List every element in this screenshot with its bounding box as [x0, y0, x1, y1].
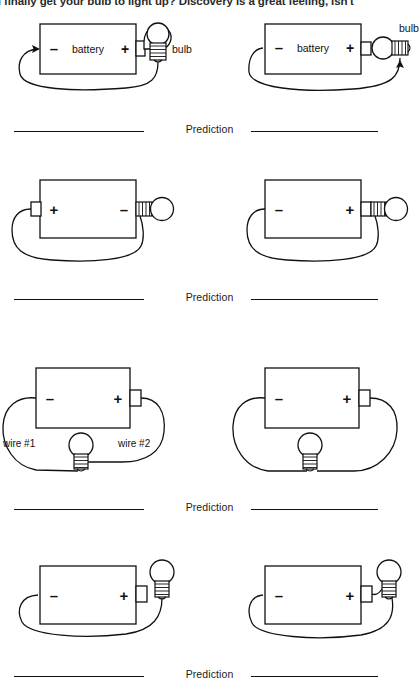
battery-terminal-right: +: [343, 390, 352, 407]
prediction-row-1: Prediction: [0, 123, 419, 139]
prediction-row-3: Prediction: [0, 501, 419, 517]
battery-terminal-left: –: [275, 587, 283, 604]
bulb-screw-base: [74, 454, 88, 469]
prediction-blank-right[interactable]: [251, 299, 378, 300]
circuit-4b: – +: [243, 538, 419, 658]
battery-terminal-left: –: [50, 40, 58, 57]
circuit-1a: battery – + bulb: [6, 16, 206, 121]
current-arrow-icon: [396, 60, 404, 68]
circuit-4a: – +: [6, 538, 206, 658]
bulb-glass-circle: [298, 433, 322, 457]
battery-terminal-left: –: [50, 587, 58, 604]
prediction-label: Prediction: [0, 668, 419, 680]
wire-2-label: wire #2: [117, 438, 151, 449]
circuit-2a: + –: [6, 172, 206, 282]
prediction-blank-right[interactable]: [251, 509, 378, 510]
bulb-glass-circle: [372, 37, 394, 59]
prediction-blank-right[interactable]: [251, 676, 378, 677]
battery-positive-nub: [130, 390, 141, 406]
battery-positive-nub: [136, 586, 147, 602]
worksheet-page: u finally get your bulb to light up? Dis…: [0, 0, 419, 690]
wire-1-label: wire #1: [2, 438, 36, 449]
bulb-screw-base: [371, 202, 386, 216]
battery-terminal-right: –: [120, 201, 128, 218]
battery-positive-nub: [361, 42, 371, 55]
prediction-row-4: Prediction: [0, 668, 419, 684]
battery-positive-nub: [359, 390, 370, 406]
bulb-glass-circle: [151, 198, 174, 221]
battery-terminal-left: –: [46, 390, 54, 407]
battery-terminal-right: +: [346, 587, 355, 604]
battery-terminal-left: –: [275, 390, 283, 407]
prediction-label: Prediction: [0, 291, 419, 303]
battery-positive-nub: [361, 202, 371, 216]
bulb-label: bulb: [172, 43, 192, 55]
battery-positive-nub: [361, 586, 372, 602]
current-arrow-icon: [32, 45, 40, 53]
battery-positive-nub: [31, 202, 41, 216]
battery-terminal-left: –: [275, 201, 283, 218]
top-text-content: u finally get your bulb to light up? Dis…: [0, 0, 419, 7]
circuit-1b: battery – + bulb: [243, 16, 419, 121]
circuit-2b: – +: [243, 172, 419, 282]
battery-terminal-right: +: [120, 587, 129, 604]
prediction-blank-right[interactable]: [251, 131, 378, 132]
battery-terminal-right: +: [346, 40, 354, 56]
wire-short: [372, 589, 382, 595]
page-top-text: u finally get your bulb to light up? Dis…: [0, 0, 419, 7]
prediction-label: Prediction: [0, 501, 419, 513]
battery-terminal-left: –: [275, 39, 283, 56]
bulb-screw-base: [303, 454, 317, 469]
battery-label: battery: [72, 43, 105, 55]
battery-terminal-right: +: [121, 41, 129, 57]
circuit-3b: – +: [232, 340, 419, 492]
bulb-glass-circle: [385, 198, 408, 221]
prediction-label: Prediction: [0, 123, 419, 135]
battery-terminal-right: +: [114, 390, 123, 407]
circuit-3a: – + wire #1 wire #2: [0, 340, 206, 492]
bulb-glass-circle: [147, 23, 169, 45]
bulb-glass-circle: [69, 433, 93, 457]
bulb-label: bulb: [399, 22, 419, 34]
battery-label: battery: [297, 42, 330, 54]
battery-terminal-right: +: [346, 201, 355, 218]
battery-terminal-left: +: [50, 201, 59, 218]
prediction-row-2: Prediction: [0, 291, 419, 307]
